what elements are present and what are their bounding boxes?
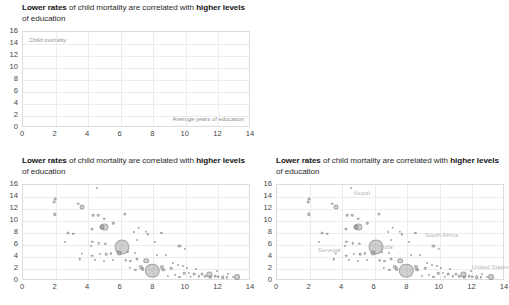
x-tick-label: 2 xyxy=(52,283,56,291)
data-point xyxy=(333,258,335,260)
data-point xyxy=(195,268,197,270)
panel-title: Lower rates of child mortality are corre… xyxy=(22,156,252,177)
y-axis-labels: 0246810121416 xyxy=(254,184,272,280)
country-label: United States xyxy=(472,263,509,271)
x-tick-label: 12 xyxy=(213,130,221,138)
gridline-horizontal xyxy=(23,197,249,198)
data-point xyxy=(91,241,93,243)
data-point xyxy=(351,214,354,217)
data-point xyxy=(98,253,100,255)
gridline-vertical xyxy=(186,32,187,126)
data-point xyxy=(488,274,494,280)
data-point xyxy=(72,232,75,235)
data-point xyxy=(209,276,211,278)
x-tick-label: 6 xyxy=(118,130,122,138)
data-point xyxy=(455,272,458,275)
data-point xyxy=(440,267,442,269)
panel-blank xyxy=(254,0,508,152)
data-point xyxy=(201,272,204,275)
gridline-horizontal xyxy=(23,56,249,57)
data-point xyxy=(64,241,66,243)
data-point xyxy=(80,205,85,210)
gridline-horizontal xyxy=(23,209,249,210)
data-point xyxy=(345,255,348,258)
y-tick-label: 14 xyxy=(10,192,18,200)
data-point xyxy=(364,252,366,254)
y-tick-label: 16 xyxy=(264,180,272,188)
data-point xyxy=(395,267,399,271)
gridline-horizontal xyxy=(277,233,503,234)
x-axis-labels: 02468101214 xyxy=(22,283,250,295)
data-point xyxy=(424,267,427,270)
title-bold-2: higher levels xyxy=(450,156,499,165)
data-point xyxy=(350,187,352,189)
data-point xyxy=(387,231,389,233)
data-point xyxy=(134,252,136,254)
gridline-vertical xyxy=(342,185,343,279)
title-mid: of child mortality are correlated with xyxy=(321,156,450,165)
gridline-horizontal xyxy=(23,233,249,234)
data-point xyxy=(189,276,192,279)
data-point xyxy=(127,251,129,253)
data-point xyxy=(391,226,394,229)
data-point xyxy=(124,259,127,262)
x-tick-label: 8 xyxy=(150,283,154,291)
x-tick-label: 0 xyxy=(274,283,278,291)
y-tick-label: 2 xyxy=(14,264,18,272)
data-point xyxy=(136,258,139,261)
data-point xyxy=(390,258,393,261)
y-tick-label: 10 xyxy=(10,63,18,71)
y-tick-label: 0 xyxy=(268,276,272,284)
data-point xyxy=(77,202,80,205)
data-point xyxy=(137,226,140,229)
data-point xyxy=(103,217,106,220)
data-point xyxy=(234,274,240,280)
data-point xyxy=(331,202,334,205)
y-tick-label: 4 xyxy=(14,252,18,260)
y-tick-label: 6 xyxy=(268,240,272,248)
gridline-vertical xyxy=(186,185,187,279)
data-point xyxy=(193,273,196,276)
gridline-horizontal xyxy=(23,245,249,246)
data-point xyxy=(123,212,126,215)
gridline-vertical xyxy=(88,185,89,279)
x-tick-label: 4 xyxy=(85,130,89,138)
data-point xyxy=(165,254,167,256)
data-point xyxy=(110,252,112,254)
data-point xyxy=(426,262,428,264)
x-tick-label: 10 xyxy=(181,283,189,291)
y-tick-label: 4 xyxy=(14,99,18,107)
data-point xyxy=(421,275,423,277)
x-tick-label: 4 xyxy=(339,283,343,291)
data-point xyxy=(432,276,434,278)
y-tick-label: 14 xyxy=(10,39,18,47)
data-point xyxy=(468,275,471,278)
data-point xyxy=(198,275,200,277)
data-point xyxy=(419,254,421,256)
data-point xyxy=(161,268,165,272)
x-tick-label: 8 xyxy=(404,283,408,291)
data-point xyxy=(479,276,481,278)
gridline-vertical xyxy=(218,185,219,279)
gridline-vertical xyxy=(375,185,376,279)
data-point xyxy=(415,268,419,272)
data-point xyxy=(94,259,96,261)
y-tick-label: 0 xyxy=(14,123,18,131)
data-point xyxy=(307,200,310,203)
data-point xyxy=(318,241,320,243)
plot-area: NepalSenegalIndiaSouth AfricaUnited Stat… xyxy=(276,184,504,280)
title-end: of education xyxy=(22,14,65,23)
panel-title: Lower rates of child mortality are corre… xyxy=(22,3,252,24)
gridline-horizontal xyxy=(277,197,503,198)
gridline-horizontal xyxy=(277,221,503,222)
gridline-vertical xyxy=(218,32,219,126)
data-point xyxy=(92,214,95,217)
title-mid: of child mortality are correlated with xyxy=(67,3,196,12)
gridline-horizontal xyxy=(23,221,249,222)
country-label: Senegal xyxy=(318,246,341,254)
x-axis-labels: 02468101214 xyxy=(276,283,504,295)
data-point xyxy=(377,212,380,215)
data-point xyxy=(348,259,350,261)
data-point xyxy=(103,260,105,262)
data-point xyxy=(90,245,92,247)
